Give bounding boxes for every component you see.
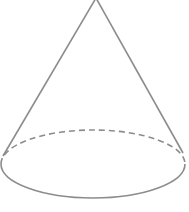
cone-diagram	[0, 0, 189, 212]
cone-base-front	[1, 164, 185, 198]
cone-base-back-dashed	[1, 130, 185, 164]
cone-left-side	[3, 0, 96, 156]
